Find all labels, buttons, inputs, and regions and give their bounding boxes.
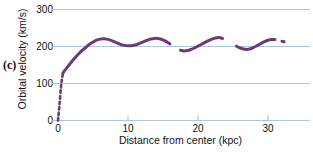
plot-area [0, 0, 313, 153]
x-tick-marks-group [58, 116, 268, 121]
series-1-segment-1 [181, 38, 223, 51]
data-curves-group [58, 38, 284, 121]
series-1-segment-2 [237, 39, 276, 49]
series-0-segment-0 [58, 73, 63, 120]
series-1-segment-0 [63, 38, 170, 73]
gridlines-group [52, 10, 310, 121]
rotation-curve-figure: (c) Orbital velocity (km/s) Distance fro… [0, 0, 313, 153]
